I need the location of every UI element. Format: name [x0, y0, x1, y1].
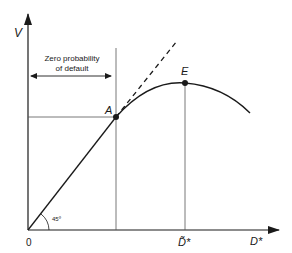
d-tilde-label: D̃* [178, 236, 191, 248]
forty-five-degree-line [28, 117, 116, 230]
annotation-line-1: Zero probability [44, 54, 99, 63]
point-e-label: E [181, 65, 189, 77]
point-a-label: A [104, 104, 112, 116]
origin-label: 0 [26, 237, 32, 248]
angle-label: 45º [52, 216, 62, 222]
point-a-marker [113, 114, 119, 120]
angle-arc [41, 214, 49, 230]
y-axis-label: V [14, 26, 23, 40]
value-curve [116, 83, 250, 117]
annotation-line-2: of default [56, 64, 90, 73]
x-axis-label: D* [250, 235, 263, 247]
dashed-extension-line [116, 41, 177, 117]
value-vs-debt-diagram: V D* 0 D̃* Zero probability of default 4… [0, 0, 292, 253]
point-e-marker [182, 80, 188, 86]
